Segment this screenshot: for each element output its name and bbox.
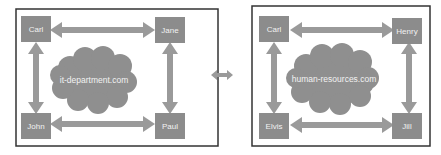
node-label: Jill bbox=[402, 122, 412, 131]
right-cloud-label: human-resources.com bbox=[292, 74, 377, 84]
node-label: John bbox=[27, 122, 44, 131]
left-cloud-label: it-department.com bbox=[60, 75, 129, 85]
node-label: Carl bbox=[267, 25, 282, 34]
node-label: Paul bbox=[162, 122, 178, 131]
node-label: Elvis bbox=[266, 122, 283, 131]
diagram: it-department.com Carl Jane John Paul hu… bbox=[0, 0, 441, 155]
node-label: Jane bbox=[161, 26, 179, 35]
node-label: Carl bbox=[29, 25, 44, 34]
node-label: Henry bbox=[396, 27, 417, 36]
